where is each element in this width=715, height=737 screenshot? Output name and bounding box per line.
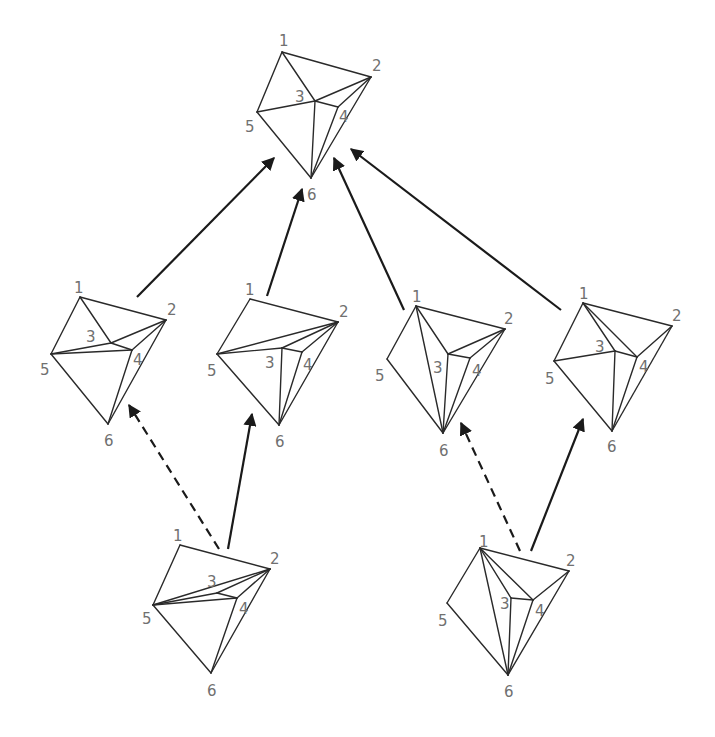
edge-5-3 xyxy=(554,351,615,361)
vertex-label-2: 2 xyxy=(339,303,349,321)
edge-2-6 xyxy=(108,320,166,424)
vertex-label-6: 6 xyxy=(104,432,114,450)
polyhedron-mid-3: 123456 xyxy=(375,288,514,460)
edge-5-3 xyxy=(257,101,315,112)
vertex-label-5: 5 xyxy=(142,610,152,628)
edge-2-6 xyxy=(311,77,371,178)
vertex-label-3: 3 xyxy=(265,354,275,372)
polyhedron-mid-4: 123456 xyxy=(545,285,682,456)
vertex-label-4: 4 xyxy=(339,108,349,126)
vertex-label-3: 3 xyxy=(595,338,605,356)
vertex-label-6: 6 xyxy=(275,433,285,451)
vertex-label-1: 1 xyxy=(74,279,84,297)
vertex-label-4: 4 xyxy=(239,600,249,618)
vertex-label-6: 6 xyxy=(439,442,449,460)
edge-1-2 xyxy=(250,299,338,322)
vertex-label-1: 1 xyxy=(279,32,289,50)
edge-3-2 xyxy=(315,77,371,101)
edge-2-6 xyxy=(508,571,569,675)
polyhedron-bottom-1: 123456 xyxy=(142,527,280,700)
edge-5-6 xyxy=(447,603,508,675)
edge-3-6 xyxy=(311,101,315,178)
polyhedron-bottom-2: 123456 xyxy=(438,533,576,701)
edge-3-6 xyxy=(279,348,282,425)
vertex-label-1: 1 xyxy=(579,285,589,303)
edge-3-4 xyxy=(448,354,470,358)
vertex-label-2: 2 xyxy=(270,550,280,568)
polyhedron-mid-1: 123456 xyxy=(40,279,177,450)
edge-3-4 xyxy=(111,343,132,350)
vertex-label-5: 5 xyxy=(207,362,217,380)
vertex-label-6: 6 xyxy=(207,682,217,700)
edge-2-4 xyxy=(637,326,672,357)
edge-3-2 xyxy=(217,569,270,593)
vertex-label-3: 3 xyxy=(433,359,443,377)
edge-4-6 xyxy=(279,352,302,425)
edge-1-5 xyxy=(387,306,416,359)
arrows-layer xyxy=(129,149,583,551)
arrow-mid-4-to-top xyxy=(351,149,561,310)
vertex-label-2: 2 xyxy=(504,310,514,328)
edge-4-2 xyxy=(470,329,505,358)
edge-1-4 xyxy=(583,303,637,357)
edge-1-5 xyxy=(554,303,583,361)
edge-4-2 xyxy=(533,571,569,600)
edge-1-5 xyxy=(153,545,180,605)
vertex-label-6: 6 xyxy=(607,438,617,456)
dashed-arrow-bottom-2-to-mid-3 xyxy=(461,423,520,551)
vertex-label-5: 5 xyxy=(245,118,255,136)
polyhedron-top: 123456 xyxy=(245,32,382,204)
edge-1-5 xyxy=(447,548,480,603)
vertex-label-2: 2 xyxy=(372,57,382,75)
edge-4-2 xyxy=(338,77,371,107)
vertex-label-2: 2 xyxy=(167,301,177,319)
vertex-label-3: 3 xyxy=(86,328,96,346)
edge-3-4 xyxy=(315,101,338,107)
vertex-label-5: 5 xyxy=(375,367,385,385)
edge-1-5 xyxy=(257,52,282,112)
edge-1-5 xyxy=(51,297,80,354)
vertex-label-3: 3 xyxy=(295,88,305,106)
vertex-label-2: 2 xyxy=(566,552,576,570)
edge-3-4 xyxy=(282,348,302,352)
vertex-label-5: 5 xyxy=(545,370,555,388)
vertex-label-6: 6 xyxy=(307,186,317,204)
edge-1-2 xyxy=(180,545,270,569)
vertex-label-4: 4 xyxy=(133,351,143,369)
vertex-label-1: 1 xyxy=(245,281,255,299)
vertex-label-4: 4 xyxy=(639,358,649,376)
edge-3-4 xyxy=(511,598,533,600)
edge-5-6 xyxy=(51,354,108,424)
edge-1-4 xyxy=(480,548,533,600)
vertex-label-4: 4 xyxy=(472,362,482,380)
edge-4-6 xyxy=(311,107,338,178)
edge-3-6 xyxy=(612,351,615,431)
vertex-label-1: 1 xyxy=(173,527,183,545)
edge-2-6 xyxy=(443,329,505,433)
polyhedra-layer: 1234561234561234561234561234561234561234… xyxy=(40,32,682,701)
edge-1-2 xyxy=(480,548,569,571)
edge-4-6 xyxy=(211,598,237,673)
arrow-bottom-2-to-mid-4 xyxy=(531,419,583,551)
polyhedron-mid-2: 123456 xyxy=(207,281,349,451)
vertex-label-3: 3 xyxy=(207,573,217,591)
edge-5-6 xyxy=(153,605,211,673)
vertex-label-2: 2 xyxy=(672,307,682,325)
vertex-label-4: 4 xyxy=(303,356,313,374)
edge-3-4 xyxy=(217,593,237,598)
edge-3-2 xyxy=(448,329,505,354)
arrow-mid-1-to-top xyxy=(137,158,274,297)
edge-4-2 xyxy=(132,320,166,350)
arrow-mid-2-to-top xyxy=(267,189,302,296)
vertex-label-5: 5 xyxy=(438,612,448,630)
vertex-label-5: 5 xyxy=(40,361,50,379)
vertex-label-3: 3 xyxy=(500,595,510,613)
vertex-label-4: 4 xyxy=(535,602,545,620)
flip-graph-diagram: 1234561234561234561234561234561234561234… xyxy=(0,0,715,737)
vertex-label-1: 1 xyxy=(479,533,489,551)
vertex-label-1: 1 xyxy=(412,288,422,306)
edge-1-2 xyxy=(282,52,371,77)
arrow-bottom-1-to-mid-2 xyxy=(228,414,252,549)
edge-1-5 xyxy=(217,299,250,354)
edge-3-2 xyxy=(111,320,166,343)
